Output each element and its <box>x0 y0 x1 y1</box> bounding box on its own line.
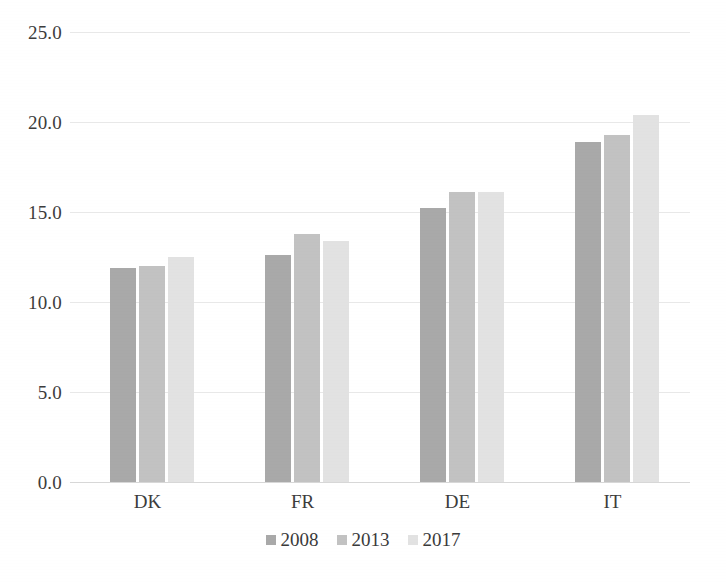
legend-label: 2017 <box>423 530 461 549</box>
legend-swatch-icon <box>266 535 276 545</box>
x-axis-category-label: DE <box>380 492 535 512</box>
plot-area <box>70 32 690 482</box>
legend-item[interactable]: 2017 <box>408 530 461 549</box>
x-axis-category-label: FR <box>225 492 380 512</box>
chart-legend: 200820132017 <box>0 530 726 549</box>
y-axis-tick-label: 20.0 <box>6 113 62 132</box>
legend-swatch-icon <box>408 535 418 545</box>
y-axis-tick-label: 0.0 <box>6 473 62 492</box>
legend-label: 2013 <box>352 530 390 549</box>
bar-group <box>110 32 194 482</box>
bar <box>633 115 659 482</box>
bar <box>139 266 165 482</box>
bar <box>323 241 349 482</box>
x-axis-category-label: DK <box>70 492 225 512</box>
legend-item[interactable]: 2008 <box>266 530 319 549</box>
bar-group <box>265 32 349 482</box>
bar-chart: 0.05.010.015.020.025.0 DKFRDEIT 20082013… <box>0 0 726 582</box>
axis-baseline <box>70 482 690 483</box>
bar <box>294 234 320 482</box>
bar <box>110 268 136 482</box>
bar <box>168 257 194 482</box>
legend-item[interactable]: 2013 <box>337 530 390 549</box>
bar-group <box>420 32 504 482</box>
y-axis-tick-label: 10.0 <box>6 293 62 312</box>
bar <box>449 192 475 482</box>
bar <box>575 142 601 482</box>
x-axis-category-label: IT <box>535 492 690 512</box>
bar <box>478 192 504 482</box>
bar-group <box>575 32 659 482</box>
y-axis-tick-label: 5.0 <box>6 383 62 402</box>
bar <box>420 208 446 482</box>
y-axis-tick-label: 15.0 <box>6 203 62 222</box>
bar <box>604 135 630 482</box>
y-axis-tick-label: 25.0 <box>6 23 62 42</box>
legend-swatch-icon <box>337 535 347 545</box>
bar <box>265 255 291 482</box>
legend-label: 2008 <box>281 530 319 549</box>
